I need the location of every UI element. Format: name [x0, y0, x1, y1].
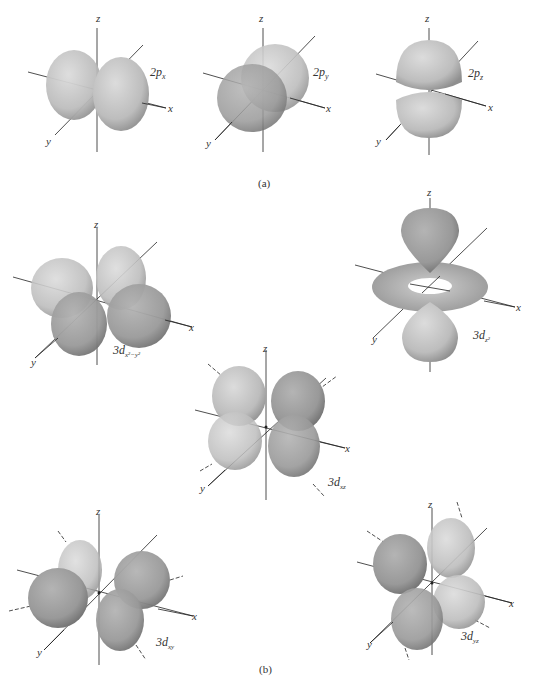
axis-label-x: x — [487, 101, 493, 113]
axis-label-x: x — [344, 442, 350, 454]
axis-label-z: z — [93, 218, 99, 230]
orbital-2py: z x y 2py — [203, 12, 331, 152]
orbital-label-3dxz: 3dxz — [327, 475, 346, 491]
axis-label-z: z — [95, 12, 101, 24]
caption-b: (b) — [259, 663, 272, 676]
orbital-label-2pz: 2pz — [468, 66, 484, 82]
axis-label-z: z — [426, 186, 432, 198]
axis-label-z: z — [427, 498, 433, 510]
orbital-2pz: z x y 2pz — [375, 12, 493, 155]
axis-label-y: y — [199, 482, 205, 494]
axis-label-x: x — [191, 610, 197, 622]
axis-label-x: x — [325, 102, 331, 114]
axis-label-y: y — [375, 135, 381, 147]
orbital-3dz2: z x y 3dz² — [355, 186, 521, 372]
orbital-2px: z x y 2px — [28, 12, 173, 152]
axis-label-z: z — [424, 12, 430, 24]
axis-label-y: y — [30, 356, 36, 368]
orbital-3dx2-y2: z x y 3dx²−y² — [13, 218, 194, 368]
orbital-label-3dyz: 3dyz — [460, 629, 479, 645]
axis-label-x: x — [188, 321, 194, 333]
axis-label-z: z — [95, 505, 101, 517]
orbital-3dxz: z x y 3dxz — [195, 342, 350, 500]
axis-label-y: y — [36, 646, 42, 658]
orbital-3dxy: z x y 3dxy — [9, 505, 197, 665]
axis-label-x: x — [508, 597, 514, 609]
orbital-label-2px: 2px — [150, 65, 166, 81]
caption-a: (a) — [258, 177, 271, 190]
axis-label-z: z — [262, 342, 268, 354]
axis-label-y: y — [205, 137, 211, 149]
orbital-3dyz: z x y 3dyz — [357, 498, 514, 660]
axis-label-x: x — [515, 301, 521, 313]
orbital-label-2py: 2py — [313, 65, 329, 81]
orbital-label-3dxy: 3dxy — [155, 635, 175, 651]
axis-label-x: x — [167, 102, 173, 114]
axis-label-y: y — [366, 638, 372, 650]
orbital-figure: z x y 2px z x y 2py z x y 2pz (a) — [0, 0, 533, 680]
axis-label-y: y — [371, 333, 377, 345]
axis-label-y: y — [45, 135, 51, 147]
orbital-label-3dz2: 3dz² — [472, 328, 491, 344]
axis-label-z: z — [258, 12, 264, 24]
